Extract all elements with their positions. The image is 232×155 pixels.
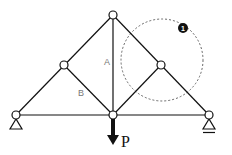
arrow-shaft (111, 119, 115, 136)
truss-diagram: P A B 1 (0, 0, 232, 155)
right-roller-support (203, 119, 215, 133)
load-arrow (107, 119, 119, 145)
node-right-mid (157, 61, 165, 69)
member-b (64, 65, 113, 115)
node-bottom-center (109, 111, 117, 119)
node-left-mid (60, 61, 68, 69)
arrow-down-icon (107, 135, 119, 145)
member-b-label: B (78, 88, 84, 98)
detail-circle (121, 19, 203, 101)
roller-support-icon (203, 119, 215, 129)
node-left-support (12, 111, 20, 119)
node-top (109, 11, 117, 19)
badge-number: 1 (181, 25, 185, 32)
member-right-diagonal (113, 65, 161, 115)
left-pin-support (10, 119, 22, 129)
pin-support-icon (10, 119, 22, 129)
load-label: P (121, 133, 130, 150)
member-a-label: A (104, 57, 110, 67)
detail-badge: 1 (178, 23, 188, 33)
truss-canvas: P A B 1 (0, 0, 232, 155)
node-right-support (205, 111, 213, 119)
